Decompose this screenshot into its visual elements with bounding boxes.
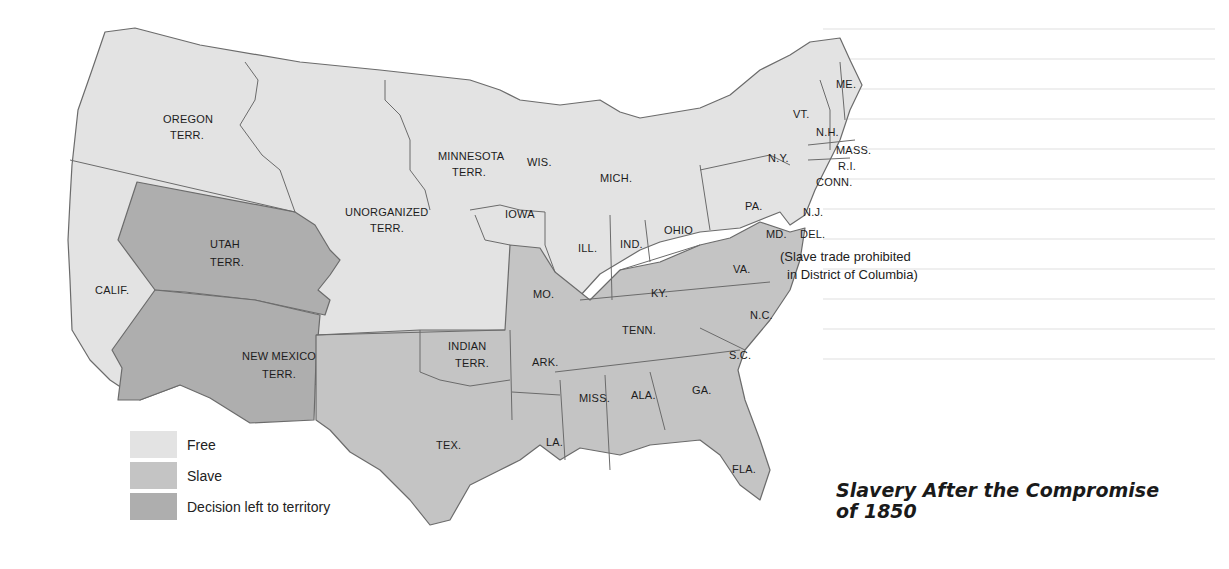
- swatch-slave: [130, 462, 177, 489]
- legend-item-territory: Decision left to territory: [130, 494, 330, 519]
- label-ga: GA.: [692, 384, 712, 396]
- legend-item-free: Free: [130, 432, 330, 457]
- label-unorganized-2: TERR.: [370, 222, 404, 234]
- label-ny: N.Y.: [768, 152, 789, 164]
- label-ky: KY.: [651, 287, 668, 299]
- label-ala: ALA.: [631, 389, 656, 401]
- label-ri: R.I.: [838, 160, 856, 172]
- label-indian: INDIAN: [448, 340, 486, 352]
- annotation-dc-line1: (Slave trade prohibited: [780, 249, 911, 264]
- legend-label: Slave: [187, 468, 222, 484]
- label-vt: VT.: [793, 108, 810, 120]
- label-iowa: IOWA: [505, 208, 535, 220]
- label-ark: ARK.: [532, 356, 558, 368]
- legend: Free Slave Decision left to territory: [130, 432, 330, 525]
- label-oregon: OREGON: [163, 113, 213, 125]
- label-la: LA.: [546, 436, 563, 448]
- label-new-mexico-2: TERR.: [262, 368, 296, 380]
- label-ohio: OHIO: [664, 224, 693, 236]
- label-minnesota: MINNESOTA: [438, 150, 505, 162]
- label-wis: WIS.: [527, 156, 552, 168]
- label-minnesota-2: TERR.: [452, 166, 486, 178]
- label-new-mexico: NEW MEXICO: [242, 350, 316, 362]
- label-tenn: TENN.: [622, 324, 656, 336]
- label-ill: ILL.: [578, 242, 597, 254]
- label-md: MD.: [766, 228, 787, 240]
- label-me: ME.: [836, 78, 856, 90]
- label-nj: N.J.: [803, 206, 823, 218]
- label-unorganized: UNORGANIZED: [345, 206, 428, 218]
- label-calif: CALIF.: [95, 284, 129, 296]
- label-nc: N.C.: [750, 309, 773, 321]
- label-va: VA.: [733, 263, 751, 275]
- label-nh: N.H.: [816, 126, 839, 138]
- label-conn: CONN.: [816, 176, 852, 188]
- label-pa: PA.: [745, 200, 763, 212]
- map-title-line2: of 1850: [836, 501, 1159, 522]
- swatch-free: [130, 431, 177, 458]
- swatch-territory: [130, 493, 177, 520]
- label-mass: MASS.: [836, 144, 871, 156]
- label-indian-2: TERR.: [455, 357, 489, 369]
- label-miss: MISS.: [579, 392, 610, 404]
- legend-label: Free: [187, 437, 216, 453]
- map-title: Slavery After the Compromise of 1850: [836, 480, 1159, 522]
- label-mo: MO.: [533, 288, 554, 300]
- label-fla: FLA.: [732, 463, 756, 475]
- label-utah: UTAH: [210, 238, 240, 250]
- label-ind: IND.: [620, 238, 643, 250]
- label-mich: MICH.: [600, 172, 632, 184]
- label-oregon-2: TERR.: [170, 129, 204, 141]
- map-title-line1: Slavery After the Compromise: [836, 480, 1159, 501]
- annotation-dc-line2: in District of Columbia): [787, 267, 918, 282]
- label-utah-2: TERR.: [210, 256, 244, 268]
- legend-label: Decision left to territory: [187, 499, 330, 515]
- legend-item-slave: Slave: [130, 463, 330, 488]
- label-sc: S.C.: [729, 349, 751, 361]
- label-tex: TEX.: [436, 439, 461, 451]
- label-del: DEL.: [800, 228, 825, 240]
